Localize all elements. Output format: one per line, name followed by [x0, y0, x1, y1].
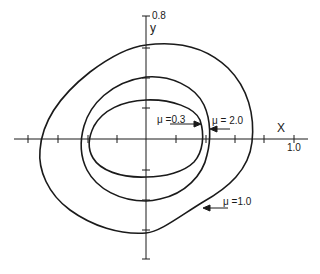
arrow-mu-2-0: [210, 126, 230, 132]
x-max-label: 1.0: [287, 143, 301, 153]
x-axis-label: X: [277, 122, 285, 134]
y-axis-label: y: [150, 22, 156, 34]
phase-plot: [0, 0, 320, 274]
y-max-label: 0.8: [152, 11, 166, 21]
label-mu-2-0: μ = 2.0: [212, 116, 243, 126]
label-mu-1-0: μ =1.0: [223, 197, 251, 207]
diagram-canvas: 0.8 y X 1.0 μ =0.3 μ = 2.0 μ =1.0: [0, 0, 320, 274]
label-mu-0-3: μ =0.3: [157, 115, 185, 125]
